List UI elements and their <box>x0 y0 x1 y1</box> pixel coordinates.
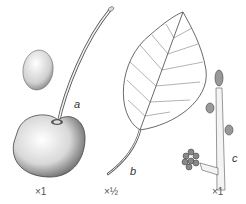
cherry-fruit <box>13 6 114 177</box>
scale-label-a: ×1 <box>35 186 46 197</box>
botanical-illustration <box>0 0 246 204</box>
panel-label-c: c <box>232 152 238 164</box>
scale-label-b: ×½ <box>104 186 118 197</box>
panel-label-b: b <box>130 165 136 177</box>
scale-label-c: ×1 <box>212 186 223 197</box>
cherry-stone <box>20 48 55 92</box>
panel-label-a: a <box>74 98 80 110</box>
